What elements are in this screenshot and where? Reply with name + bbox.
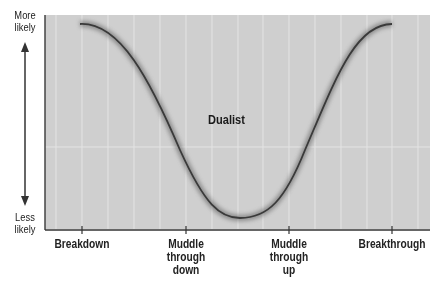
y-top-label-line-2: likely — [11, 21, 40, 33]
x-label-line: down — [144, 264, 229, 277]
y-bottom-label-line-2: likely — [11, 223, 40, 235]
x-label-muddle-through-up: Muddle through up — [247, 238, 332, 277]
y-top-label-line-1: More — [11, 9, 40, 21]
y-axis-double-arrow-icon — [21, 42, 29, 206]
x-label-breakthrough-text: Breakthrough — [350, 238, 435, 251]
x-label-breakdown-text: Breakdown — [40, 238, 125, 251]
x-label-breakthrough: Breakthrough — [350, 238, 435, 251]
y-top-label: More likely — [11, 9, 40, 33]
dualist-annotation: Dualist — [208, 112, 245, 127]
x-label-line: up — [247, 264, 332, 277]
x-label-muddle-through-down: Muddle through down — [144, 238, 229, 277]
x-label-breakdown: Breakdown — [40, 238, 125, 251]
y-bottom-label: Less likely — [11, 211, 40, 235]
y-bottom-label-line-1: Less — [11, 211, 40, 223]
